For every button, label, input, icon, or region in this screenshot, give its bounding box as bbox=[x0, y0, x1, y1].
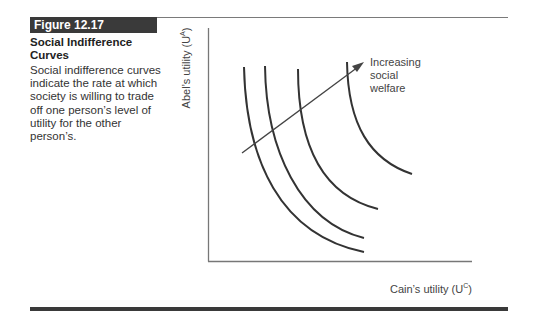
bottom-rule-divider bbox=[30, 307, 508, 311]
increasing-welfare-annotation: Increasing social welfare bbox=[370, 56, 421, 95]
indifference-curves-plot bbox=[0, 0, 535, 313]
indifference-curve-1 bbox=[244, 67, 364, 252]
x-axis-label-close: ) bbox=[468, 283, 472, 295]
annotation-line-2: social bbox=[370, 69, 421, 82]
welfare-arrow-line bbox=[242, 67, 358, 153]
annotation-line-3: welfare bbox=[370, 82, 421, 95]
x-axis-label-text: Cain’s utility (U bbox=[390, 283, 463, 295]
annotation-line-1: Increasing bbox=[370, 56, 421, 69]
x-axis-label: Cain’s utility (UC) bbox=[390, 282, 472, 295]
